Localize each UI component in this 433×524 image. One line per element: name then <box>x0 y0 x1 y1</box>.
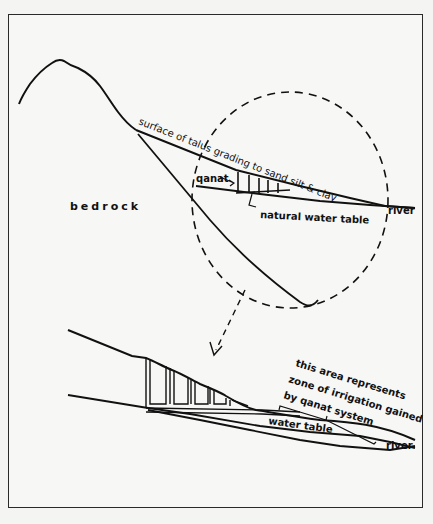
zone-bracket-tick <box>326 416 327 420</box>
qanat-diagram: surface of talus grading to sand silt & … <box>0 0 433 524</box>
label-natural-water-table: natural water table <box>260 209 370 226</box>
label-river-lower: river <box>386 440 413 451</box>
mountain-profile <box>19 60 136 130</box>
label-river-upper: river <box>388 205 415 216</box>
water-table-pointer <box>249 194 256 207</box>
detail-pointer-arrowhead <box>210 342 222 355</box>
label-bedrock: bedrock <box>70 200 141 213</box>
detail-pointer-arrow <box>216 290 245 350</box>
label-qanat: qanat <box>196 173 229 184</box>
